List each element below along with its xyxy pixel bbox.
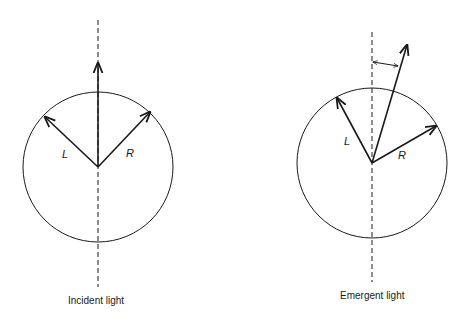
right-circular-vector-arrow xyxy=(98,112,150,167)
emergent-light-caption: Emergent light xyxy=(340,290,405,301)
optical-rotation-diagram: L R Incident light L R Emergent light xyxy=(0,0,466,324)
incident-light-panel: L R Incident light xyxy=(23,20,173,306)
left-circular-vector-arrow xyxy=(45,117,98,167)
right-vector-label: R xyxy=(126,147,134,159)
rotation-angle-double-arrow xyxy=(373,62,398,66)
right-vector-label: R xyxy=(398,149,406,161)
left-vector-label: L xyxy=(344,135,350,147)
emergent-light-panel: L R Emergent light xyxy=(297,32,447,301)
incident-light-caption: Incident light xyxy=(68,295,124,306)
left-circular-vector-arrow xyxy=(337,98,372,163)
left-vector-label: L xyxy=(62,148,68,160)
